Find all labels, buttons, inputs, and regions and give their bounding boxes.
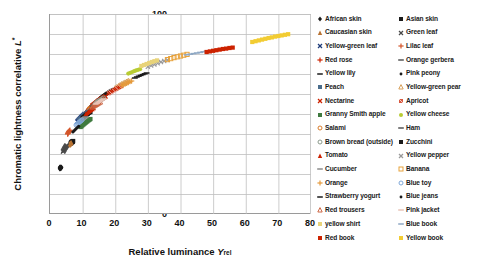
legend-label: Salami — [325, 125, 346, 132]
legend-item[interactable]: Asian skin — [397, 12, 477, 26]
legend-label: Banana — [406, 166, 429, 173]
legend-item[interactable]: Yellow-green pear — [397, 80, 477, 94]
legend-label: Yellow-green leaf — [325, 43, 377, 50]
legend-label: Caucasian skin — [325, 29, 372, 36]
legend-item[interactable]: Yellow-green leaf — [316, 39, 396, 53]
legend-label: Yellow lily — [325, 70, 355, 77]
square-marker-icon — [397, 234, 405, 242]
legend-label: Ham — [406, 125, 420, 132]
dash-marker-icon — [397, 206, 405, 214]
x-axis-subscript: rel — [224, 249, 232, 256]
legend-item[interactable]: Ham — [397, 122, 477, 136]
dash-marker-icon — [397, 124, 405, 132]
legend-item[interactable]: Pink peony — [397, 67, 477, 81]
x-tick-70: 70 — [262, 218, 292, 228]
legend-item[interactable]: Blue book — [397, 217, 477, 231]
square-marker-icon — [397, 138, 405, 146]
x-axis-title: Relative luminance Yrel — [49, 246, 311, 257]
diamond-marker-icon — [316, 15, 324, 23]
y-axis-title-text: Chromatic lightness correlative — [12, 46, 23, 191]
x-tick-10: 10 — [67, 218, 97, 228]
y-axis-symbol: L — [12, 40, 23, 46]
legend-item[interactable]: African skin — [316, 12, 396, 26]
x-tick-60: 60 — [230, 218, 260, 228]
legend-label: Yellow book — [406, 235, 443, 242]
legend-label: Strawberry yogurt — [325, 193, 380, 200]
legend-item[interactable]: Yellow pepper — [397, 149, 477, 163]
legend-item[interactable]: Granny Smith apple — [316, 108, 396, 122]
x-tick-30: 30 — [132, 218, 162, 228]
x-marker-icon — [316, 97, 324, 105]
legend-label: yellow shirt — [325, 221, 360, 228]
legend-item[interactable]: Orange — [316, 176, 396, 190]
legend-item[interactable]: Red trousers — [316, 204, 396, 218]
plus-marker-icon — [397, 42, 405, 50]
legend-item[interactable]: Lilac leaf — [397, 39, 477, 53]
legend-label: Yellow-green pear — [406, 84, 461, 91]
y-axis-superscript: * — [11, 37, 18, 40]
legend-item[interactable]: Yellow book — [397, 231, 477, 245]
circle-marker-icon — [397, 111, 405, 119]
x-tick-40: 40 — [165, 218, 195, 228]
legend-item[interactable]: Apricot — [397, 94, 477, 108]
x-axis-title-text: Relative luminance — [129, 246, 218, 257]
triangle-marker-icon — [316, 29, 324, 37]
legend-label: Red trousers — [325, 207, 364, 214]
legend-item[interactable]: Salami — [316, 122, 396, 136]
legend-label: Nectarine — [325, 98, 354, 105]
dot-marker-icon — [397, 70, 405, 78]
legend-item[interactable]: yellow shirt — [316, 217, 396, 231]
legend-item[interactable]: Pink jacket — [397, 204, 477, 218]
dash-marker-icon — [316, 70, 324, 78]
x-marker-icon — [397, 29, 405, 37]
dash-marker-icon — [397, 56, 405, 64]
legend-label: Asian skin — [406, 16, 438, 23]
legend-label: Brown bread (outside) — [325, 139, 393, 146]
legend-item[interactable]: Cucumber — [316, 163, 396, 177]
dot-marker-icon — [397, 193, 405, 201]
legend-label: Yellow pepper — [406, 152, 449, 159]
legend-label: Red rose — [325, 57, 352, 64]
legend-item[interactable]: Red book — [316, 231, 396, 245]
legend-item[interactable]: Zucchini — [397, 135, 477, 149]
circle-open-marker-icon — [397, 179, 405, 187]
legend-item[interactable]: Orange gerbera — [397, 53, 477, 67]
legend-label: Peach — [325, 84, 344, 91]
legend-label: Lilac leaf — [406, 43, 433, 50]
legend-item[interactable]: Blue toy — [397, 176, 477, 190]
legend-item[interactable]: Banana — [397, 163, 477, 177]
legend-item[interactable]: Yellow lily — [316, 67, 396, 81]
circle-open-marker-icon — [316, 124, 324, 132]
legend-item[interactable]: Yellow cheese — [397, 108, 477, 122]
legend-label: Apricot — [406, 98, 428, 105]
plus-marker-icon — [316, 56, 324, 64]
circle-open-marker-icon — [316, 138, 324, 146]
x-marker-icon — [316, 42, 324, 50]
legend-item[interactable]: Tomato — [316, 149, 396, 163]
square-marker-icon — [316, 111, 324, 119]
legend-column-right: Asian skinGreen leafLilac leafOrange ger… — [397, 12, 477, 245]
x-tick-20: 20 — [99, 218, 129, 228]
legend-item[interactable]: Brown bread (outside) — [316, 135, 396, 149]
legend-item[interactable]: Red rose — [316, 53, 396, 67]
legend-item[interactable]: Strawberry yogurt — [316, 190, 396, 204]
square-marker-icon — [397, 15, 405, 23]
legend-item[interactable]: Green leaf — [397, 26, 477, 40]
square-marker-icon — [316, 234, 324, 242]
legend-label: Tomato — [325, 152, 348, 159]
legend-label: Granny Smith apple — [325, 111, 386, 118]
legend-item[interactable]: Peach — [316, 80, 396, 94]
legend-label: Blue jeans — [406, 193, 438, 200]
legend-column-left: African skinCaucasian skinYellow-green l… — [316, 12, 396, 245]
legend-label: African skin — [325, 16, 362, 23]
scatter-chart-figure: Chromatic lightness correlative L* Relat… — [0, 0, 480, 264]
legend-item[interactable]: Caucasian skin — [316, 26, 396, 40]
dash-marker-icon — [397, 220, 405, 228]
legend-item[interactable]: Nectarine — [316, 94, 396, 108]
dash-marker-icon — [316, 193, 324, 201]
square-marker-icon — [316, 220, 324, 228]
legend-label: Pink peony — [406, 70, 440, 77]
legend-item[interactable]: Blue jeans — [397, 190, 477, 204]
legend-label: Orange — [325, 180, 348, 187]
legend-label: Zucchini — [406, 139, 432, 146]
